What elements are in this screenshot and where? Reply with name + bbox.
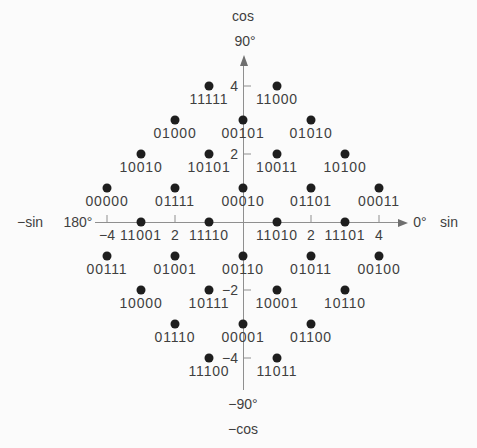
constellation-point [103, 252, 112, 261]
y-tick-label: 4 [230, 78, 238, 94]
x-axis-positive-label: sin [440, 214, 458, 230]
constellation-point [239, 184, 248, 193]
constellation-point [205, 286, 214, 295]
constellation-point [239, 252, 248, 261]
point-label: 11001 [120, 227, 162, 243]
y-axis-negative-label: −cos [228, 421, 258, 437]
constellation-point [171, 252, 180, 261]
point-label: 10100 [324, 159, 367, 175]
constellation-point [273, 354, 282, 363]
constellation-point [307, 184, 316, 193]
x-tick-mark [175, 215, 176, 222]
point-label: 01010 [290, 125, 333, 141]
point-label: 10010 [120, 159, 163, 175]
point-label: 01100 [290, 329, 332, 345]
point-label: 11111 [190, 91, 229, 107]
y-axis-arrow-icon [240, 55, 248, 66]
y-axis-positive-label: cos [232, 8, 254, 24]
y-tick-mark [243, 154, 251, 155]
point-label: 00011 [358, 193, 400, 209]
point-label: 00000 [86, 193, 129, 209]
point-label: 10110 [324, 295, 366, 311]
constellation-point [205, 150, 214, 159]
y-tick-mark [243, 290, 251, 291]
point-label: 01011 [290, 261, 332, 277]
y-tick-label: 2 [230, 146, 238, 162]
point-label: 01110 [155, 329, 196, 345]
constellation-point [341, 218, 350, 227]
constellation-point [239, 320, 248, 329]
point-label: 01111 [155, 193, 195, 209]
point-label: 00010 [222, 193, 265, 209]
constellation-point [171, 116, 180, 125]
y-tick-mark [243, 358, 251, 359]
constellation-point [273, 218, 282, 227]
x-axis-arrow-icon [398, 219, 408, 227]
constellation-point [239, 116, 248, 125]
constellation-point [273, 286, 282, 295]
point-label: 10001 [256, 295, 299, 311]
constellation-point [375, 184, 384, 193]
constellation-point [341, 150, 350, 159]
x-tick-mark [107, 215, 108, 222]
point-label: 10000 [120, 295, 163, 311]
constellation-point [137, 286, 146, 295]
constellation-point [273, 150, 282, 159]
constellation-point [137, 150, 146, 159]
x-tick-label: 2 [171, 227, 179, 243]
point-label: 00100 [358, 261, 401, 277]
point-label: 00111 [87, 261, 128, 277]
point-label: 00001 [222, 329, 265, 345]
constellation-point [341, 286, 350, 295]
point-label: 10101 [188, 159, 231, 175]
point-label: 00101 [222, 125, 265, 141]
constellation-point [307, 320, 316, 329]
point-label: 10111 [189, 295, 230, 311]
y-tick-mark [243, 86, 251, 87]
constellation-point [103, 184, 112, 193]
point-label: 11101 [325, 227, 366, 243]
x-axis-negative-label: −sin [17, 214, 43, 230]
x-tick-label: 4 [375, 227, 383, 243]
point-label: 01001 [154, 261, 197, 277]
x-axis-negative-angle: 180° [64, 214, 93, 230]
constellation-point [171, 184, 180, 193]
point-label: 11010 [256, 227, 298, 243]
x-axis-positive-angle: 0° [413, 214, 426, 230]
point-label: 01000 [154, 125, 197, 141]
constellation-point [205, 354, 214, 363]
point-label: 11110 [189, 227, 229, 243]
x-tick-mark [311, 215, 312, 222]
point-label: 10011 [256, 159, 298, 175]
point-label: 11000 [256, 91, 298, 107]
point-label: 11011 [257, 363, 298, 379]
constellation-point [137, 218, 146, 227]
constellation-point [205, 82, 214, 91]
constellation-point [171, 320, 180, 329]
point-label: 00110 [222, 261, 264, 277]
point-label: 11100 [189, 363, 230, 379]
y-axis-positive-angle: 90° [234, 33, 255, 49]
x-tick-label: −4 [99, 227, 115, 243]
constellation-diagram: cos 90° −90° −cos −sin 180° 0° sin −4224… [0, 0, 477, 448]
constellation-point [205, 218, 214, 227]
y-axis-negative-angle: −90° [228, 396, 257, 412]
x-tick-label: 2 [307, 227, 315, 243]
x-tick-mark [379, 215, 380, 222]
constellation-point [307, 116, 316, 125]
constellation-point [375, 252, 384, 261]
constellation-point [307, 252, 316, 261]
point-label: 01101 [290, 193, 332, 209]
constellation-point [273, 82, 282, 91]
